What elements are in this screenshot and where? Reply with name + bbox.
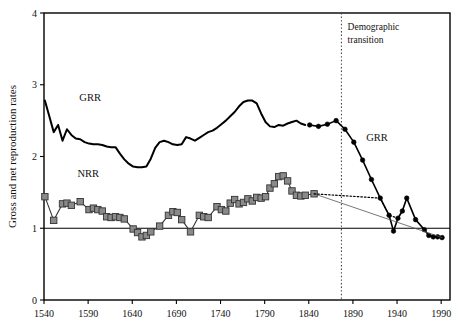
series-marker-NRR (174, 209, 180, 215)
series-marker-GRR-transition (400, 209, 405, 214)
series-marker-GRR-transition (343, 127, 348, 132)
plot-frame (44, 13, 450, 300)
series-marker-GRR-transition (334, 118, 339, 123)
series-marker-NRR (284, 178, 290, 184)
axis-ticks (40, 13, 441, 304)
series-marker-NRR (223, 208, 229, 214)
series-marker-GRR-transition (391, 229, 396, 234)
y-tick-label: 0 (32, 295, 37, 306)
series-marker-GRR-transition (316, 124, 321, 129)
y-tick-label: 1 (32, 223, 37, 234)
chart-figure: 1540159016401690174017901840189019401990… (0, 0, 463, 335)
annotation-demographic-transition-label-line1: Demographic (348, 22, 400, 32)
annotation-grr-label-left: GRR (79, 92, 101, 103)
series-marker-GRR-transition (413, 217, 418, 222)
series-marker-NRR (68, 202, 74, 208)
series-marker-NRR (178, 216, 184, 222)
x-tick-label: 1540 (34, 308, 54, 319)
x-tick-label: 1640 (122, 308, 142, 319)
annotation-demographic-transition-label-line2: transition (348, 35, 384, 45)
data-series (42, 101, 445, 241)
y-tick-label: 4 (32, 8, 37, 19)
series-marker-NRR (205, 214, 211, 220)
series-marker-GRR-transition (325, 122, 330, 127)
series-line-NRR-projected (314, 194, 442, 238)
series-marker-GRR-transition (352, 140, 357, 145)
axis-tick-labels: 1540159016401690174017901840189019401990… (32, 8, 451, 320)
series-marker-NRR (121, 216, 127, 222)
series-marker-NRR (271, 181, 277, 187)
series-line-GRR (45, 101, 305, 168)
series-marker-NRR (42, 193, 48, 199)
series-marker-GRR-transition (307, 123, 312, 128)
series-marker-GRR-transition (360, 158, 365, 163)
annotation-grr-label-right: GRR (366, 132, 388, 143)
chart-annotations: GRRNRRGRRDemographictransition (78, 22, 400, 178)
annotation-nrr-label-left: NRR (78, 168, 100, 179)
x-tick-label: 1740 (211, 308, 231, 319)
series-marker-NRR (148, 229, 154, 235)
x-tick-label: 1790 (255, 308, 275, 319)
series-marker-NRR (302, 192, 308, 198)
x-tick-label: 1590 (78, 308, 98, 319)
y-tick-label: 2 (32, 151, 37, 162)
x-tick-label: 1690 (166, 308, 186, 319)
series-marker-NRR (51, 217, 57, 223)
chart-canvas: 1540159016401690174017901840189019401990… (0, 0, 463, 335)
y-tick-label: 3 (32, 79, 37, 90)
x-tick-label: 1840 (299, 308, 319, 319)
x-tick-label: 1990 (431, 308, 451, 319)
x-tick-label: 1890 (343, 308, 363, 319)
series-marker-NRR (77, 199, 83, 205)
series-marker-NRR (156, 223, 162, 229)
y-axis-label: Gross and net reproduction rates (6, 85, 18, 228)
series-marker-GRR-transition (404, 196, 409, 201)
series-marker-NRR (262, 193, 268, 199)
y-axis-title: Gross and net reproduction rates (6, 85, 18, 228)
reference-lines (44, 13, 450, 300)
series-marker-GRR-transition (369, 177, 374, 182)
x-tick-label: 1940 (387, 308, 407, 319)
series-marker-NRR (187, 229, 193, 235)
plot-border (44, 13, 450, 300)
series-line-NRR-dotted-link (314, 194, 398, 218)
